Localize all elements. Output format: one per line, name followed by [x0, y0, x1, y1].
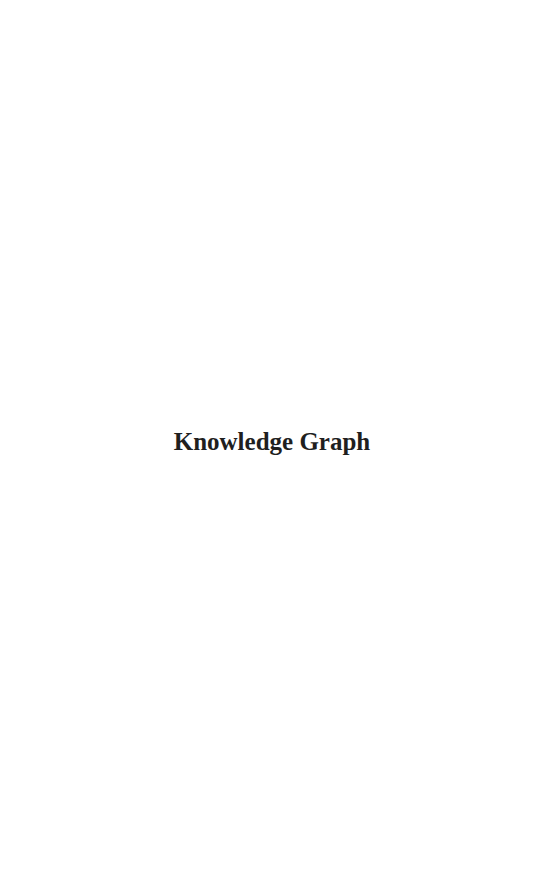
page-title: Knowledge Graph — [0, 425, 544, 459]
document-page: Knowledge Graph — [0, 0, 544, 887]
